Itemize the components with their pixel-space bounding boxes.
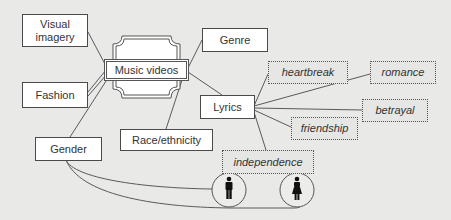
theme-independence: independence [222,150,314,174]
link-gender-male [66,160,212,189]
theme-label: heartbreak [282,66,335,79]
node-lyrics: Lyrics [200,95,255,119]
theme-label: betrayal [375,104,414,117]
node-label: Music videos [115,64,179,77]
link-lyrics-friendship [254,110,291,127]
theme-label: friendship [301,122,349,135]
link-lyrics-independence [254,112,266,150]
node-visual-imagery: Visual imagery [22,14,88,47]
link-lyrics-betrayal [254,108,362,110]
theme-label: romance [382,66,425,79]
theme-friendship: friendship [291,117,358,140]
node-label: Genre [220,34,251,47]
node-gender: Gender [35,137,102,161]
node-label: Gender [50,143,87,156]
node-genre: Genre [202,28,268,52]
node-fashion: Fashion [22,82,88,108]
theme-heartbreak: heartbreak [268,61,348,84]
node-race-ethnicity: Race/ethnicity [120,129,213,151]
link-genre-music [188,40,202,68]
node-label: Visual imagery [23,18,87,44]
theme-betrayal: betrayal [362,99,428,122]
node-label: Fashion [35,89,74,102]
concept-diagram: Visual imagery Fashion Gender Genre Lyri… [0,0,451,220]
node-label: Race/ethnicity [132,134,201,147]
node-music-videos: Music videos [104,59,189,81]
link-lyrics-music [188,72,222,95]
theme-label: independence [233,156,302,169]
link-lyrics-heartbreak [254,74,268,106]
theme-romance: romance [370,61,436,84]
node-label: Lyrics [213,101,241,114]
